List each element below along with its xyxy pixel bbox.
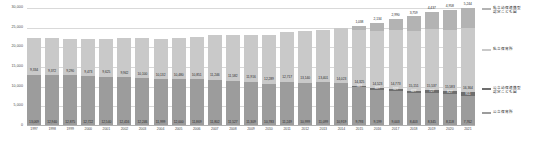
bar-segment-private-nursery[interactable]: 10,132 — [154, 39, 168, 79]
bar-segment-private-nursery[interactable]: 14,523 — [370, 31, 384, 88]
bar-column[interactable]: 9,37212,940 — [45, 8, 59, 126]
bar-value-label: 5,244 — [464, 3, 472, 6]
bar-value-label: 11,527 — [228, 121, 238, 124]
bar-segment-public-nursery[interactable]: 8,118 — [443, 94, 457, 126]
bar-column[interactable]: 9,33413,069 — [27, 8, 41, 126]
bar-column[interactable]: 11,58211,527 — [226, 8, 240, 126]
legend-swatch-public-nursery — [482, 112, 491, 114]
y-axis-tick-label: 5,000 — [14, 105, 24, 109]
bar-segment-public-nursery[interactable]: 12,416 — [117, 77, 131, 126]
bar-segment-private-cert[interactable]: 2,134 — [370, 23, 384, 31]
legend-swatch-public-cert — [482, 88, 491, 90]
bar-value-label: 12,416 — [119, 121, 129, 124]
bar-column[interactable]: 12,71711,249 — [280, 8, 294, 126]
bar-segment-private-nursery[interactable]: 9,942 — [117, 38, 131, 77]
bar-value-label: 4,437 — [428, 7, 436, 10]
bar-segment-public-nursery[interactable]: 11,249 — [280, 82, 294, 126]
bar-segment-public-nursery[interactable]: 12,246 — [135, 78, 149, 126]
bar-segment-private-nursery[interactable]: 15,583 — [443, 30, 457, 91]
bar-segment-private-nursery[interactable]: 12,289 — [262, 35, 276, 83]
bar-segment-public-nursery[interactable]: 11,099 — [316, 82, 330, 126]
bar-column[interactable]: 4,43715,5377278,345 — [425, 8, 439, 126]
bar-segment-private-nursery[interactable]: 9,290 — [63, 39, 77, 76]
bar-segment-private-nursery[interactable]: 10,100 — [135, 38, 149, 78]
bar-segment-public-nursery[interactable]: 13,069 — [27, 75, 41, 126]
y-axis-tick-label: 15,000 — [11, 65, 23, 69]
bar-value-label: 8,403 — [410, 121, 418, 124]
bar-segment-private-nursery[interactable]: 10,851 — [190, 37, 204, 80]
bar-column[interactable]: 13,14010,999 — [298, 8, 312, 126]
bar-segment-private-nursery[interactable]: 14,023 — [334, 28, 348, 83]
bar-segment-public-nursery[interactable]: 7,762 — [461, 96, 475, 126]
bar-column[interactable]: 9,62512,540 — [99, 8, 113, 126]
bar-segment-private-nursery[interactable]: 11,246 — [208, 35, 222, 79]
bar-value-label: 16,364 — [463, 87, 473, 90]
bar-segment-public-nursery[interactable]: 12,000 — [172, 79, 186, 126]
bar-segment-private-nursery[interactable]: 9,334 — [27, 38, 41, 75]
bar-segment-private-nursery[interactable]: 15,151 — [407, 31, 421, 91]
bar-segment-public-nursery[interactable]: 11,802 — [208, 80, 222, 126]
bar-column[interactable]: 1,03814,3253279,793 — [352, 8, 366, 126]
bar-segment-private-nursery[interactable]: 16,364 — [461, 28, 475, 92]
bar-segment-public-nursery[interactable]: 10,919 — [334, 83, 348, 126]
bar-column[interactable]: 9,47312,722 — [81, 8, 95, 126]
bar-column[interactable]: 13,40111,099 — [316, 8, 330, 126]
bar-column[interactable]: 5,24416,3649117,762 — [461, 8, 475, 126]
bar-segment-private-nursery[interactable]: 12,717 — [280, 32, 294, 82]
bar-segment-private-cert[interactable]: 4,958 — [443, 10, 457, 30]
bar-segment-private-nursery[interactable]: 15,537 — [425, 29, 439, 90]
x-axis-tick-label: 2007 — [208, 128, 222, 138]
bar-column[interactable]: 10,13211,999 — [154, 8, 168, 126]
bar-column[interactable]: 9,29012,875 — [63, 8, 77, 126]
plot-area: 9,33413,0699,37212,9409,29012,8759,47312… — [27, 8, 475, 126]
bar-segment-public-nursery[interactable]: 11,999 — [154, 79, 168, 126]
bar-column[interactable]: 11,24611,802 — [208, 8, 222, 126]
bar-segment-private-nursery[interactable]: 9,473 — [81, 39, 95, 76]
bar-column[interactable]: 9,94212,416 — [117, 8, 131, 126]
bar-segment-public-nursery[interactable]: 11,309 — [244, 82, 258, 126]
bar-value-label: 14,023 — [336, 78, 346, 81]
bar-segment-private-nursery[interactable]: 11,916 — [244, 35, 258, 82]
y-axis: 05,00010,00015,00020,00025,00030,000 — [0, 8, 25, 126]
bar-segment-private-cert[interactable]: 4,437 — [425, 12, 439, 29]
bar-segment-public-nursery[interactable]: 12,875 — [63, 75, 77, 126]
bar-segment-public-nursery[interactable]: 9,199 — [370, 90, 384, 126]
bar-segment-public-nursery[interactable]: 8,345 — [425, 93, 439, 126]
bar-segment-public-nursery[interactable]: 11,869 — [190, 79, 204, 126]
bar-column[interactable]: 2,13414,5234279,199 — [370, 8, 384, 126]
bar-segment-private-cert[interactable]: 5,244 — [461, 8, 475, 28]
bar-value-label: 10,132 — [156, 74, 166, 77]
bar-column[interactable]: 3,75915,1516278,403 — [407, 8, 421, 126]
bar-segment-public-nursery[interactable]: 12,722 — [81, 76, 95, 126]
bar-column[interactable]: 10,48012,000 — [172, 8, 186, 126]
bar-segment-public-nursery[interactable]: 10,783 — [262, 84, 276, 126]
bar-segment-private-nursery[interactable]: 13,140 — [298, 31, 312, 83]
bar-segment-public-nursery[interactable]: 9,003 — [389, 91, 403, 126]
bar-segment-private-nursery[interactable]: 11,582 — [226, 35, 240, 81]
bar-segment-public-nursery[interactable]: 8,403 — [407, 93, 421, 126]
bar-column[interactable]: 10,10012,246 — [135, 8, 149, 126]
bar-segment-public-nursery[interactable]: 10,999 — [298, 83, 312, 126]
bar-column[interactable]: 14,02310,919 — [334, 8, 348, 126]
bar-segment-public-nursery[interactable]: 9,793 — [352, 87, 366, 126]
bar-column[interactable]: 11,91611,309 — [244, 8, 258, 126]
bar-segment-private-nursery[interactable]: 14,773 — [389, 30, 403, 88]
bar-segment-private-nursery[interactable]: 10,480 — [172, 38, 186, 79]
bar-column[interactable]: 4,95815,5838278,118 — [443, 8, 457, 126]
bar-value-label: 12,246 — [138, 121, 148, 124]
bar-segment-private-cert[interactable]: 2,990 — [389, 19, 403, 31]
bar-segment-private-nursery[interactable]: 9,372 — [45, 38, 59, 75]
bar-value-label: 13,401 — [318, 77, 328, 80]
bar-column[interactable]: 12,28910,783 — [262, 8, 276, 126]
bar-segment-public-nursery[interactable]: 11,527 — [226, 81, 240, 126]
bar-value-label: 9,003 — [392, 121, 400, 124]
bar-segment-private-nursery[interactable]: 14,325 — [352, 30, 366, 86]
bar-column[interactable]: 2,99014,7735279,003 — [389, 8, 403, 126]
x-axis-tick-label: 2013 — [316, 128, 330, 138]
bar-segment-public-nursery[interactable]: 12,540 — [99, 77, 113, 126]
bar-segment-private-nursery[interactable]: 13,401 — [316, 30, 330, 83]
bar-segment-private-nursery[interactable]: 9,625 — [99, 39, 113, 77]
bar-segment-private-cert[interactable]: 3,759 — [407, 16, 421, 31]
bar-segment-public-nursery[interactable]: 12,940 — [45, 75, 59, 126]
bar-column[interactable]: 10,85111,869 — [190, 8, 204, 126]
